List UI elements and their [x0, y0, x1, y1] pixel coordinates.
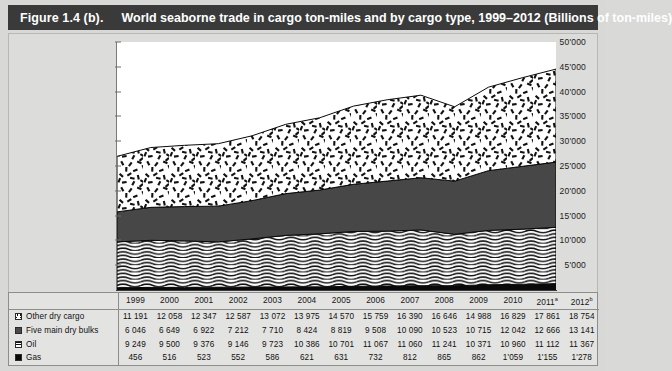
table-column-header: 2000 — [152, 293, 186, 310]
table-column-header: 2002 — [221, 293, 255, 310]
table-cell: 586 — [255, 351, 289, 365]
table-column-header: 1999 — [118, 293, 152, 310]
table-cell: 865 — [427, 351, 461, 365]
y-axis-tick-label: 40'000 — [560, 87, 586, 97]
y-axis-tick-label: 10'000 — [560, 235, 586, 245]
table-cell: 523 — [187, 351, 221, 365]
table-cell: 6 922 — [187, 324, 221, 338]
table-row: Oil9 2499 5009 3769 1469 72310 38610 701… — [9, 338, 599, 352]
page-title: World seaborne trade in cargo ton-miles … — [121, 11, 672, 25]
data-table-border: 1999200020012002200320042005200620072008… — [8, 292, 598, 366]
data-table-wrap: 1999200020012002200320042005200620072008… — [8, 292, 598, 363]
figure-title-bar: Figure 1.4 (b). World seaborne trade in … — [8, 5, 598, 30]
table-cell: 8 424 — [290, 324, 324, 338]
table-cell: 631 — [324, 351, 358, 365]
table-cell: 9 500 — [152, 338, 186, 352]
table-cell: 9 249 — [118, 338, 152, 352]
table-column-header: 2003 — [255, 293, 289, 310]
dash-pattern-icon — [15, 313, 22, 320]
table-cell: 1'278 — [564, 351, 599, 365]
table-cell: 11 112 — [530, 338, 564, 352]
table-row: Five main dry bulks6 0466 6496 9227 2127… — [9, 324, 599, 338]
legend-item-five-main-dry-bulks[interactable]: Five main dry bulks — [9, 324, 118, 338]
y-axis-tick-mark — [115, 42, 121, 43]
legend-item-gas[interactable]: Gas — [9, 351, 118, 365]
y-axis-tick-label: 35'000 — [560, 111, 586, 121]
table-cell: 18 754 — [564, 310, 599, 324]
table-cell: 732 — [358, 351, 392, 365]
legend-header — [9, 293, 118, 310]
y-axis — [8, 38, 116, 290]
figure-number: Figure 1.4 (b). — [20, 11, 103, 25]
table-row: Gas4565165235525866216317328128658621'05… — [9, 351, 599, 365]
table-cell: 11 060 — [393, 338, 427, 352]
table-cell: 9 376 — [187, 338, 221, 352]
y-axis-tick-mark — [115, 166, 121, 167]
legend-label: Gas — [26, 353, 41, 362]
table-cell: 17 861 — [530, 310, 564, 324]
table-column-header: 2009 — [461, 293, 495, 310]
table-column-header: 2007 — [393, 293, 427, 310]
table-column-header: 2010 — [496, 293, 530, 310]
y-axis-tick-label: 15'000 — [560, 211, 586, 221]
table-cell: 11 067 — [358, 338, 392, 352]
table-cell: 8 819 — [324, 324, 358, 338]
table-cell: 812 — [393, 351, 427, 365]
table-cell: 7 212 — [221, 324, 255, 338]
legend-item-other-dry-cargo[interactable]: Other dry cargo — [9, 310, 118, 324]
y-axis-tick-label: 50'000 — [560, 37, 586, 47]
table-cell: 13 975 — [290, 310, 324, 324]
y-axis-tick-mark — [115, 190, 121, 191]
table-cell: 13 072 — [255, 310, 289, 324]
table-cell: 9 508 — [358, 324, 392, 338]
table-column-header: 2006 — [358, 293, 392, 310]
table-body: Other dry cargo11 19112 05812 34712 5871… — [9, 310, 599, 365]
table-cell: 11 241 — [427, 338, 461, 352]
table-column-header: 2011a — [530, 293, 564, 310]
y-axis-tick-mark — [115, 141, 121, 142]
table-cell: 1'155 — [530, 351, 564, 365]
table-cell: 10 701 — [324, 338, 358, 352]
legend-label: Other dry cargo — [26, 312, 84, 321]
y-axis-tick-label: 30'000 — [560, 136, 586, 146]
table-cell: 6 649 — [152, 324, 186, 338]
table-cell: 13 141 — [564, 324, 599, 338]
table-cell: 12 042 — [496, 324, 530, 338]
legend-label: Five main dry bulks — [26, 326, 98, 335]
legend-label: Oil — [26, 340, 36, 349]
gray-fill-icon — [15, 327, 22, 334]
table-cell: 10 960 — [496, 338, 530, 352]
table-cell: 12 058 — [152, 310, 186, 324]
table-cell: 7 710 — [255, 324, 289, 338]
y-axis-tick-mark — [115, 215, 121, 216]
table-column-header: 2012b — [564, 293, 599, 310]
table-header-row: 1999200020012002200320042005200620072008… — [9, 293, 599, 310]
table-column-header: 2004 — [290, 293, 324, 310]
table-cell: 12 347 — [187, 310, 221, 324]
table-cell: 12 587 — [221, 310, 255, 324]
table-column-header: 2008 — [427, 293, 461, 310]
y-axis-tick-mark — [115, 116, 121, 117]
y-axis-tick-mark — [115, 66, 121, 67]
table-cell: 15 759 — [358, 310, 392, 324]
table-cell: 862 — [461, 351, 495, 365]
wave-pattern-icon — [15, 341, 22, 348]
table-column-header: 2005 — [324, 293, 358, 310]
table-cell: 16 829 — [496, 310, 530, 324]
data-table: 1999200020012002200320042005200620072008… — [9, 293, 599, 365]
table-cell: 10 371 — [461, 338, 495, 352]
table-cell: 9 146 — [221, 338, 255, 352]
table-cell: 14 988 — [461, 310, 495, 324]
table-cell: 14 570 — [324, 310, 358, 324]
table-column-header: 2001 — [187, 293, 221, 310]
table-row: Other dry cargo11 19112 05812 34712 5871… — [9, 310, 599, 324]
y-axis-tick-label: 20'000 — [560, 186, 586, 196]
table-cell: 16 390 — [393, 310, 427, 324]
table-cell: 1'059 — [496, 351, 530, 365]
y-axis-tick-label: 25'000 — [560, 161, 586, 171]
table-cell: 9 723 — [255, 338, 289, 352]
column-note-marker: b — [590, 296, 593, 302]
stacked-area-plot — [117, 42, 556, 290]
legend-item-oil[interactable]: Oil — [9, 338, 118, 352]
y-axis-tick-mark — [115, 240, 121, 241]
